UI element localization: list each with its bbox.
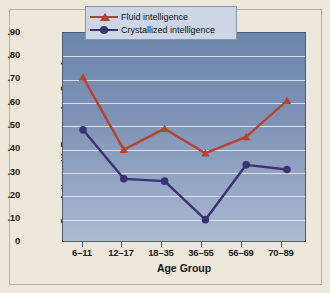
data-point-1-3: [202, 216, 210, 224]
chart-legend: Fluid intelligence Crystallized intellig…: [85, 6, 237, 40]
y-tick-label-8: .10: [0, 213, 20, 223]
data-point-1-1: [120, 175, 128, 183]
y-tick-label-5: .40: [0, 143, 20, 153]
data-point-1-4: [242, 161, 250, 169]
y-tick-label-0: .90: [0, 27, 20, 37]
data-point-0-5: [283, 96, 291, 104]
legend-label-crystallized: Crystallized intelligence: [119, 25, 215, 35]
y-tick-label-9: 0: [0, 236, 20, 246]
y-tick-label-2: .70: [0, 73, 20, 83]
chart-figure: Correlation with Processing Speed .90 .8…: [0, 0, 330, 293]
legend-marker-triangle-icon: [89, 11, 119, 22]
y-tick-label-6: .30: [0, 167, 20, 177]
legend-label-fluid: Fluid intelligence: [119, 12, 188, 22]
x-tick-label-5: 70–89: [254, 247, 308, 258]
data-point-0-0: [79, 73, 87, 81]
x-axis-title: Age Group: [62, 262, 306, 274]
series-line-1: [83, 130, 287, 220]
legend-item-fluid: Fluid intelligence: [89, 10, 232, 23]
data-point-1-0: [79, 126, 87, 134]
data-point-0-2: [160, 124, 168, 132]
legend-item-crystallized: Crystallized intelligence: [89, 23, 232, 36]
data-point-1-5: [283, 166, 291, 174]
y-tick-label-7: .20: [0, 190, 20, 200]
data-series-layer: [63, 33, 306, 242]
y-tick-label-1: .80: [0, 50, 20, 60]
legend-marker-circle-icon: [89, 24, 119, 35]
series-line-0: [83, 77, 287, 153]
y-tick-label-3: .60: [0, 97, 20, 107]
y-axis-title-wrapper: Correlation with Processing Speed: [22, 32, 38, 242]
data-point-1-2: [161, 177, 169, 185]
y-tick-label-4: .50: [0, 120, 20, 130]
plot-area: [62, 32, 306, 242]
